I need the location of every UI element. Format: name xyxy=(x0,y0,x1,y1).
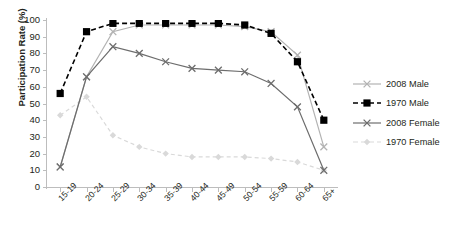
y-axis-tick-label: 0 xyxy=(14,182,40,192)
y-axis-tick-label: 40 xyxy=(14,115,40,125)
y-axis-tick-label: 90 xyxy=(14,32,40,42)
y-axis-tick-mark xyxy=(43,53,47,54)
legend-item[interactable]: 2008 Female xyxy=(352,113,468,133)
x-axis-tick-mark xyxy=(166,188,167,192)
x-axis-tick-mark xyxy=(271,188,272,192)
y-axis-tick-label: 60 xyxy=(14,82,40,92)
series-1970-female xyxy=(57,94,327,174)
y-axis-tick-mark xyxy=(43,104,47,105)
legend-marker-x-icon xyxy=(352,77,382,91)
plot-area xyxy=(47,20,337,187)
legend-label: 2008 Female xyxy=(382,118,440,128)
x-axis-tick-mark xyxy=(297,188,298,192)
y-axis-tick-label: 50 xyxy=(14,99,40,109)
legend-item[interactable]: 2008 Male xyxy=(352,74,468,94)
chart-legend: 2008 Male1970 Male2008 Female1970 Female xyxy=(352,74,468,152)
y-axis-tick-labels: 1009080706050403020100 xyxy=(14,0,40,235)
y-axis-tick-label: 80 xyxy=(14,48,40,58)
legend-marker-square-icon xyxy=(352,96,382,110)
series-canvas xyxy=(47,20,337,187)
y-axis-tick-label: 70 xyxy=(14,65,40,75)
series-1970-male xyxy=(57,20,328,124)
y-axis-tick-mark xyxy=(43,120,47,121)
legend-label: 2008 Male xyxy=(382,79,429,89)
y-axis-tick-mark xyxy=(43,187,47,188)
chart-figure: Participation Rate (%) 10090807060504030… xyxy=(0,0,468,235)
x-axis-tick-mark xyxy=(60,188,61,192)
y-axis-tick-mark xyxy=(43,170,47,171)
series-2008-male xyxy=(57,22,327,171)
legend-item[interactable]: 1970 Female xyxy=(352,133,468,153)
legend-label: 1970 Male xyxy=(382,98,429,108)
x-axis-tick-mark xyxy=(218,188,219,192)
x-axis-tick-mark xyxy=(139,188,140,192)
legend-marker-diamond-icon xyxy=(352,135,382,149)
x-axis-tick-mark xyxy=(324,188,325,192)
y-axis-tick-label: 10 xyxy=(14,165,40,175)
x-axis-tick-mark xyxy=(87,188,88,192)
y-axis-tick-mark xyxy=(43,20,47,21)
y-axis-tick-label: 100 xyxy=(14,15,40,25)
legend-marker-x-icon xyxy=(352,116,382,130)
y-axis-tick-label: 30 xyxy=(14,132,40,142)
y-axis-tick-label: 20 xyxy=(14,149,40,159)
y-axis-tick-mark xyxy=(43,37,47,38)
legend-item[interactable]: 1970 Male xyxy=(352,94,468,114)
y-axis-tick-mark xyxy=(43,137,47,138)
x-axis-tick-mark xyxy=(192,188,193,192)
y-axis-tick-mark xyxy=(43,70,47,71)
y-axis-tick-mark xyxy=(43,154,47,155)
x-axis-tick-label: 65+ xyxy=(320,186,337,203)
x-axis-tick-mark xyxy=(245,188,246,192)
y-axis-tick-mark xyxy=(43,87,47,88)
x-axis-tick-mark xyxy=(113,188,114,192)
legend-label: 1970 Female xyxy=(382,137,440,147)
